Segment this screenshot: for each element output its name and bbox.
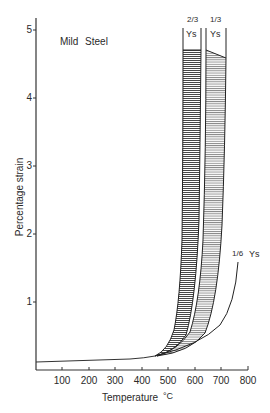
y-axis-label: Percentage strain <box>14 158 25 236</box>
label-one-third-ys: 1/3 Ys <box>210 15 222 39</box>
label-two-thirds-ys: 2/3 Ys <box>186 15 199 39</box>
chart-title: Mild Steel <box>60 36 108 47</box>
y-tick-label: 4 <box>26 92 32 103</box>
label-one-sixth-ys: 1/6 Ys <box>232 249 260 259</box>
fraction-text: 1/6 <box>232 249 244 258</box>
fraction-text: 1/3 <box>210 15 222 24</box>
x-tick-label: 400 <box>134 375 151 386</box>
chart: 1 2 3 4 5 100 200 300 400 500 600 700 80… <box>0 0 270 413</box>
x-axis-label: Temperature <box>102 392 159 403</box>
y-tick-label: 3 <box>26 160 32 171</box>
x-tick-labels: 100 200 300 400 500 600 700 800 <box>54 375 257 386</box>
ys-text: Ys <box>186 29 197 39</box>
x-tick-label: 300 <box>107 375 124 386</box>
x-axis-unit: °C <box>163 391 174 401</box>
x-tick-label: 600 <box>187 375 204 386</box>
x-tick-label: 200 <box>81 375 98 386</box>
y-tick-label: 1 <box>26 296 32 307</box>
baseline-curve <box>36 356 155 362</box>
y-tick-label: 2 <box>26 228 32 239</box>
fraction-text: 2/3 <box>187 15 199 24</box>
y-tick-labels: 1 2 3 4 5 <box>26 24 32 307</box>
x-tick-label: 700 <box>213 375 230 386</box>
ys-text: Ys <box>210 29 221 39</box>
x-tick-label: 100 <box>54 375 71 386</box>
x-tick-label: 500 <box>160 375 177 386</box>
y-tick-label: 5 <box>26 24 32 35</box>
band-two-thirds-ys <box>155 50 201 356</box>
ys-text: Ys <box>249 249 260 259</box>
x-tick-label: 800 <box>240 375 257 386</box>
